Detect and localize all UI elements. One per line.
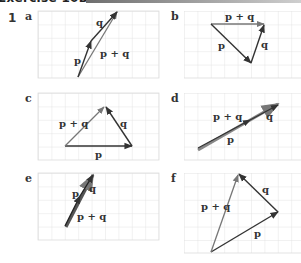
label-sum-b: p + q: [225, 11, 254, 22]
label-sum-f: p + q: [201, 201, 230, 212]
label-q-e: q: [89, 183, 96, 194]
grid-e: [38, 173, 159, 240]
label-p-f: p: [254, 228, 261, 239]
label-p-d: p: [227, 134, 234, 145]
label-q-d: q: [266, 111, 273, 122]
label-sum-e: p + q: [77, 211, 106, 222]
label-q-f: q: [262, 184, 269, 195]
grid-f: [184, 173, 301, 253]
vector-diagrams: q p p + q p + q p q p + q q p p + q q p …: [0, 0, 301, 263]
label-q-a: q: [96, 17, 103, 28]
label-p-a: p: [74, 55, 81, 66]
label-p-c: p: [95, 149, 102, 160]
label-q-b: q: [261, 39, 268, 50]
label-q-c: q: [120, 118, 127, 129]
label-sum-c: p + q: [59, 118, 88, 129]
label-p-b: p: [218, 40, 225, 51]
label-sum-d: p + q: [213, 111, 242, 122]
label-p-e: p: [72, 188, 79, 199]
label-sum-a: p + q: [100, 48, 129, 59]
grid-d: [184, 93, 301, 160]
